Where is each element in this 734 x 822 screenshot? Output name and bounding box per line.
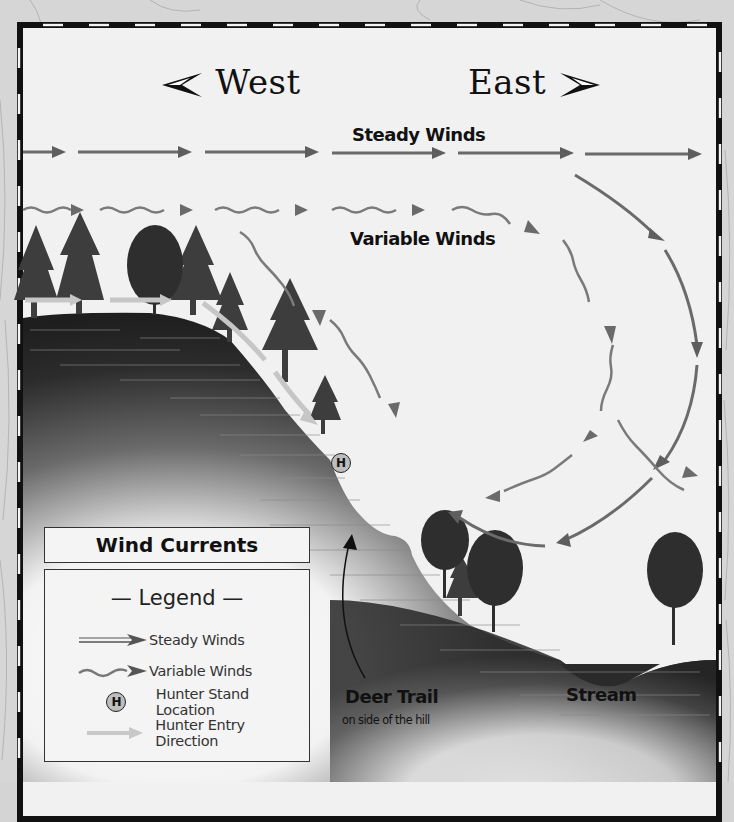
west-text: West: [215, 62, 300, 102]
legend-item-steady-winds: Steady Winds: [57, 628, 245, 652]
legend-item-hunter-entry: Hunter Entry Direction: [57, 721, 309, 745]
west-pointer-icon: [160, 71, 204, 99]
variable-winds-label: Variable Winds: [350, 228, 495, 249]
diagram-title: Wind Currents: [44, 527, 310, 563]
west-direction-label: West: [160, 62, 301, 102]
steady-wind-arrow-icon: [77, 633, 147, 647]
legend-label: Variable Winds: [149, 663, 252, 679]
stream-label: Stream: [566, 684, 637, 705]
variable-wind-arrow-icon: [77, 663, 147, 679]
hunter-entry-arrow-icon: [85, 726, 145, 740]
east-direction-label: East: [468, 62, 602, 102]
deer-trail-sublabel: on side of the hill: [342, 712, 430, 727]
hunter-stand-marker: H: [331, 453, 351, 473]
hunter-stand-icon: H: [106, 692, 126, 712]
legend-panel: — Legend — Steady Winds Variable Winds H…: [44, 569, 310, 762]
legend-label: Hunter Entry Direction: [155, 717, 309, 749]
legend-label: Hunter Stand Location: [156, 686, 309, 718]
east-pointer-icon: [558, 71, 602, 99]
legend-label: Steady Winds: [149, 632, 245, 648]
legend-title: — Legend —: [45, 586, 309, 610]
legend-item-variable-winds: Variable Winds: [57, 659, 252, 683]
deer-trail-label: Deer Trail: [345, 686, 438, 707]
legend-item-hunter-stand: H Hunter Stand Location: [57, 690, 309, 714]
steady-winds-label: Steady Winds: [352, 124, 485, 145]
east-text: East: [468, 62, 546, 102]
